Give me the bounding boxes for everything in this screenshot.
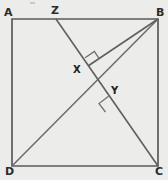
- cevian-zc: [56, 19, 158, 166]
- vertex-label-c: C: [155, 166, 163, 177]
- diagonal-db: [12, 19, 158, 166]
- scan-artifact-speck: [30, 2, 35, 4]
- vertex-label-a: A: [4, 7, 13, 18]
- point-label-x: X: [73, 65, 81, 75]
- geometry-canvas: [0, 0, 168, 180]
- vertex-label-d: D: [5, 166, 14, 177]
- segment-xb: [88, 19, 158, 66]
- geometry-figure: A B C D Z X Y: [0, 0, 168, 180]
- point-label-y: Y: [111, 86, 118, 96]
- right-angle-mark-y: [99, 96, 109, 112]
- vertex-label-b: B: [156, 7, 165, 18]
- right-angle-mark-x: [85, 52, 99, 59]
- point-label-z: Z: [51, 5, 59, 16]
